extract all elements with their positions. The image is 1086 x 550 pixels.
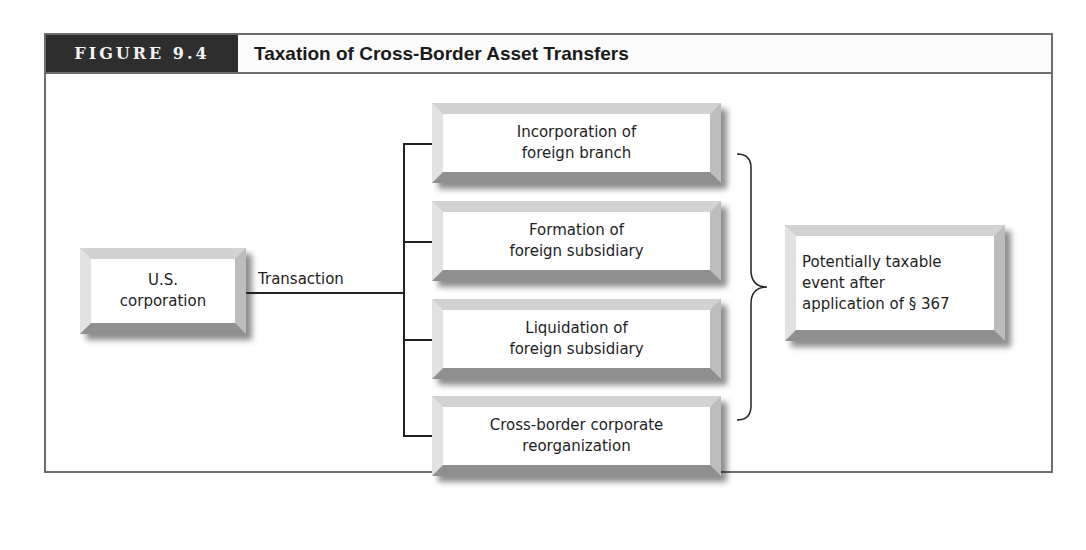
- source-line-1: U.S.: [120, 270, 206, 291]
- figure-label: FIGURE 9.4: [46, 35, 238, 72]
- branch-line-2: [403, 241, 433, 243]
- figure-header: FIGURE 9.4 Taxation of Cross-Border Asse…: [46, 35, 1051, 74]
- branch-line-1: [403, 143, 433, 145]
- result-line-2: event after: [802, 273, 950, 294]
- transaction-3-line-2: foreign subsidiary: [509, 339, 643, 360]
- transaction-box-incorporation: Incorporation of foreign branch: [432, 103, 721, 183]
- branch-line-4: [403, 435, 433, 437]
- transaction-1-line-1: Incorporation of: [517, 122, 637, 143]
- transaction-4-line-2: reorganization: [490, 436, 664, 457]
- transaction-box-liquidation: Liquidation of foreign subsidiary: [432, 299, 721, 379]
- transaction-4-line-1: Cross-border corporate: [490, 415, 664, 436]
- transaction-box-reorganization: Cross-border corporate reorganization: [432, 396, 721, 476]
- transaction-2-line-1: Formation of: [509, 220, 643, 241]
- branch-line-3: [403, 339, 433, 341]
- result-box-taxable-event: Potentially taxable event after applicat…: [785, 225, 1005, 341]
- result-line-3: application of § 367: [802, 294, 950, 315]
- transaction-2-line-2: foreign subsidiary: [509, 241, 643, 262]
- bracket-vertical-line: [403, 143, 405, 435]
- figure-title: Taxation of Cross-Border Asset Transfers: [254, 35, 629, 72]
- transaction-connector-line: [246, 292, 404, 294]
- transaction-box-formation: Formation of foreign subsidiary: [432, 201, 721, 281]
- source-line-2: corporation: [120, 291, 206, 312]
- result-line-1: Potentially taxable: [802, 252, 950, 273]
- transaction-1-line-2: foreign branch: [517, 143, 637, 164]
- curly-brace-icon: [735, 152, 775, 422]
- transaction-3-line-1: Liquidation of: [509, 318, 643, 339]
- transaction-label: Transaction: [258, 270, 344, 288]
- source-box-us-corporation: U.S. corporation: [80, 248, 246, 334]
